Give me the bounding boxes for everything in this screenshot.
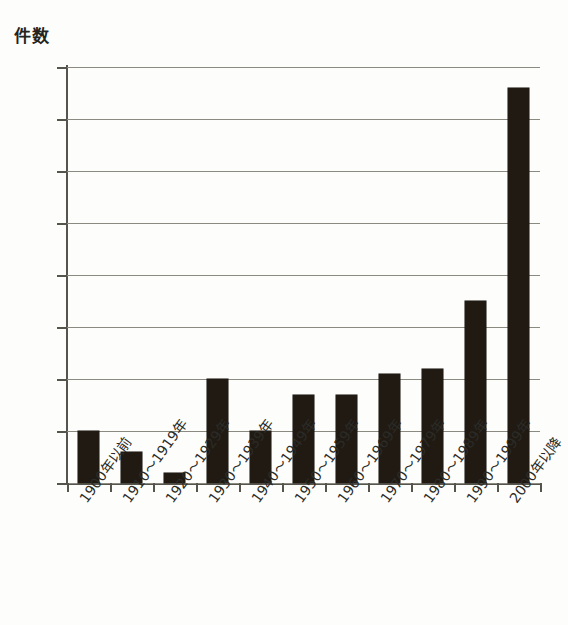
y-tick-mark: [57, 275, 67, 277]
y-tick-mark: [57, 171, 67, 173]
x-tick-mark: [196, 483, 198, 492]
x-tick-mark: [368, 483, 370, 492]
x-tick-mark: [110, 483, 112, 492]
x-tick-mark: [67, 483, 69, 492]
y-tick-mark: [57, 327, 67, 329]
x-tick-mark: [497, 483, 499, 492]
x-tick-mark: [411, 483, 413, 492]
x-tick-mark: [325, 483, 327, 492]
x-axis-labels: 1900年以前1910～1919年1920～1929年1930～1939年194…: [0, 493, 568, 618]
bar-chart: 件数 80706050403020100 1900年以前1910～1919年19…: [0, 0, 568, 625]
y-tick-mark: [57, 431, 67, 433]
y-tick-mark: [57, 379, 67, 381]
y-tick-mark: [57, 483, 67, 485]
x-tick-mark: [454, 483, 456, 492]
y-tick-mark: [57, 223, 67, 225]
y-tick-mark: [57, 67, 67, 69]
x-tick-mark: [540, 483, 542, 492]
y-tick-mark: [57, 119, 67, 121]
x-tick-mark: [153, 483, 155, 492]
x-tick-mark: [282, 483, 284, 492]
x-tick-mark: [239, 483, 241, 492]
